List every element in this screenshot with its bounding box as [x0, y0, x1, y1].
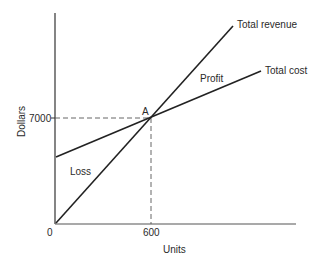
- total-revenue-label: Total revenue: [237, 19, 297, 30]
- break-even-point-label: A: [142, 106, 149, 117]
- x-axis-label: Units: [163, 244, 186, 255]
- break-even-chart: 0 600 7000 Units Dollars A Profit Loss T…: [0, 0, 322, 264]
- y-tick-label-7000: 7000: [29, 113, 52, 124]
- loss-label: Loss: [70, 166, 91, 177]
- origin-label: 0: [47, 227, 53, 238]
- profit-label: Profit: [200, 73, 224, 84]
- total-revenue-line: [56, 26, 233, 223]
- total-cost-line: [56, 71, 261, 157]
- total-cost-label: Total cost: [265, 65, 307, 76]
- y-axis-label: Dollars: [16, 106, 27, 137]
- x-tick-label-600: 600: [143, 227, 160, 238]
